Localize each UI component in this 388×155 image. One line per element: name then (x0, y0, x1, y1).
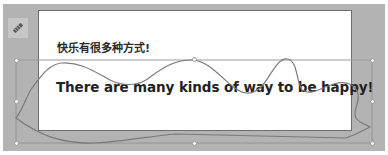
pencil-icon[interactable] (8, 18, 28, 38)
resize-handle-bottom-left[interactable] (14, 141, 19, 146)
resize-handle-top-left[interactable] (14, 58, 19, 63)
slide-headline: There are many kinds of way to be happy! (56, 79, 373, 95)
resize-handle-top-middle[interactable] (192, 57, 197, 62)
resize-handle-middle-left[interactable] (14, 99, 19, 104)
editor-canvas: 快乐有很多种方式! There are many kinds of way to… (0, 0, 388, 155)
resize-handle-top-right[interactable] (370, 58, 375, 63)
resize-handle-bottom-right[interactable] (370, 141, 375, 146)
slide-subtitle: 快乐有很多种方式! (57, 39, 150, 55)
pencil-icon-glyph (11, 21, 25, 35)
slide[interactable] (38, 10, 352, 131)
resize-handle-middle-right[interactable] (370, 99, 375, 104)
resize-handle-bottom-middle[interactable] (192, 141, 197, 146)
